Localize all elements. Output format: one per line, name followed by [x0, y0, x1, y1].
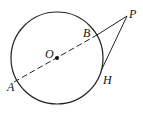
center-point-o: [55, 56, 59, 60]
label-b: B: [83, 26, 91, 40]
label-h: H: [102, 73, 113, 87]
label-p: P: [128, 7, 137, 21]
label-a: A: [6, 80, 15, 94]
label-o: O: [45, 47, 54, 61]
geometry-diagram: O A B P H: [0, 0, 143, 113]
